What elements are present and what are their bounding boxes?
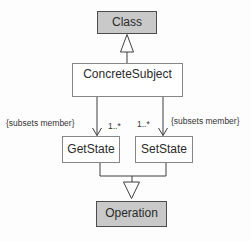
multiplicity-label-right: 1..*	[137, 119, 150, 129]
class-node: Class	[97, 11, 157, 34]
connector-group	[93, 35, 168, 199]
open-arrowhead-down-left-icon	[93, 128, 102, 136]
open-arrowhead-down-right-icon	[159, 128, 168, 136]
operation-node-label: Operation	[105, 207, 158, 220]
class-node-label: Class	[112, 16, 142, 29]
hollow-triangle-down-icon	[124, 182, 140, 199]
generalization-merge-path	[100, 163, 166, 182]
uml-class-diagram: Class ConcreteSubject GetState SetState …	[0, 0, 251, 241]
multiplicity-label-left: 1..*	[108, 121, 121, 131]
get-state-node: GetState	[62, 136, 120, 163]
operation-node: Operation	[96, 201, 167, 227]
concrete-subject-node: ConcreteSubject	[72, 63, 183, 97]
constraint-label-left: {subsets member}	[6, 118, 75, 128]
concrete-subject-node-label: ConcreteSubject	[83, 68, 172, 81]
get-state-node-label: GetState	[67, 143, 114, 156]
set-state-node: SetState	[135, 136, 193, 163]
constraint-label-right: {subsets member}	[171, 116, 240, 126]
set-state-node-label: SetState	[141, 143, 187, 156]
hollow-triangle-up-icon	[121, 35, 134, 53]
